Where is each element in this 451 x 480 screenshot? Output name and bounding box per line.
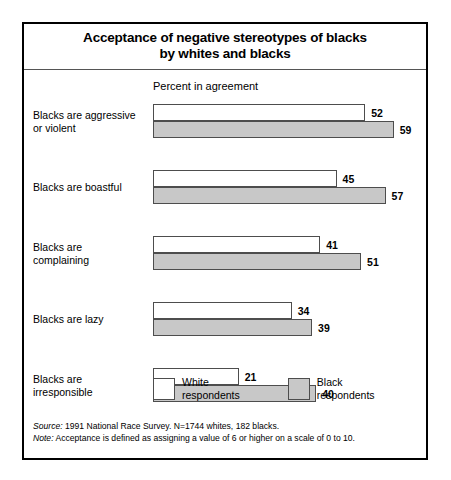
bar-row: 45: [153, 170, 426, 187]
plot-area: Percent in agreement Blacks are aggressi…: [24, 70, 426, 374]
footnotes: Source: 1991 National Race Survey. N=174…: [33, 420, 418, 444]
legend-item-white: Whiterespondents: [153, 376, 240, 401]
bar-pair: 3439: [153, 302, 426, 336]
bar-value-label: 52: [371, 107, 383, 119]
legend-label: Whiterespondents: [182, 376, 240, 401]
bar-value-label: 59: [400, 124, 412, 136]
category-label: Blacks are aggressiveor violent: [33, 109, 151, 134]
page-subtitle: by whites and blacks: [34, 46, 416, 62]
bar-group: Blacks arecomplaining4151: [24, 236, 426, 270]
bar-black: [153, 253, 361, 270]
axis-caption: Percent in agreement: [153, 80, 258, 92]
category-label: Blacks are boastful: [33, 181, 151, 194]
bar-pair: 4151: [153, 236, 426, 270]
bar-white: [153, 236, 320, 253]
bar-pair: 5259: [153, 104, 426, 138]
bar-row: 41: [153, 236, 426, 253]
bar-row: 52: [153, 104, 426, 121]
bar-white: [153, 170, 337, 187]
chart-legend: WhiterespondentsBlackrespondents: [153, 376, 375, 401]
bar-black: [153, 121, 394, 138]
bar-value-label: 57: [392, 190, 404, 202]
bar-pair: 4557: [153, 170, 426, 204]
legend-swatch-black: [288, 378, 310, 400]
footnote-lead: Source:: [33, 421, 63, 431]
bar-black: [153, 319, 312, 336]
bar-group: Blacks are lazy3439: [24, 302, 426, 336]
footnote-lead: Note:: [33, 433, 54, 443]
footnote-line: Note: Acceptance is defined as assigning…: [33, 432, 418, 444]
bar-row: 34: [153, 302, 426, 319]
bar-value-label: 41: [326, 239, 338, 251]
bar-value-label: 51: [367, 256, 379, 268]
legend-label: Blackrespondents: [317, 376, 375, 401]
bar-row: 51: [153, 253, 426, 270]
bar-value-label: 34: [298, 305, 310, 317]
bar-row: 39: [153, 319, 426, 336]
bar-group: Blacks are aggressiveor violent5259: [24, 104, 426, 138]
bar-black: [153, 187, 386, 204]
bar-value-label: 45: [343, 173, 355, 185]
chart-title-block: Acceptance of negative stereotypes of bl…: [24, 24, 426, 70]
legend-item-black: Blackrespondents: [288, 376, 375, 401]
category-label: Blacks are lazy: [33, 313, 151, 326]
bar-white: [153, 104, 365, 121]
chart-figure: Acceptance of negative stereotypes of bl…: [22, 22, 428, 460]
bar-row: 59: [153, 121, 426, 138]
category-label: Blacks arecomplaining: [33, 241, 151, 266]
bar-value-label: 39: [318, 322, 330, 334]
bar-group: Blacks are boastful4557: [24, 170, 426, 204]
bar-white: [153, 302, 292, 319]
bar-row: 57: [153, 187, 426, 204]
category-label: Blacks areirresponsible: [33, 373, 151, 398]
footnote-line: Source: 1991 National Race Survey. N=174…: [33, 420, 418, 432]
legend-swatch-white: [153, 378, 175, 400]
page-title: Acceptance of negative stereotypes of bl…: [34, 30, 416, 46]
